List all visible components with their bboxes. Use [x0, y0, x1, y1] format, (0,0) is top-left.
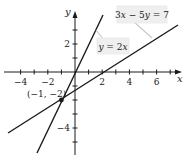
- x-tick-label: −2: [41, 77, 54, 87]
- equation-label-y-equals-2x: y = 2x: [97, 42, 127, 52]
- x-tick-label: 6: [154, 77, 160, 87]
- callout-leader-3x5y: [134, 22, 152, 38]
- intersection-label: (−1, −2): [27, 89, 66, 99]
- y-tick-label: 2: [64, 39, 70, 49]
- line-3x-minus-5y-equals-7: [8, 25, 178, 133]
- equation-label-3x-minus-5y-equals-7: 3x − 5y = 7: [115, 10, 169, 20]
- x-tick-label: 2: [99, 77, 105, 87]
- y-tick-label: −4: [57, 123, 71, 133]
- x-tick-label: −4: [14, 77, 28, 87]
- x-axis-label: x: [177, 73, 183, 84]
- y-axis-arrow-icon: [73, 11, 78, 18]
- x-tick-label: 4: [127, 77, 133, 87]
- y-axis-label: y: [64, 6, 71, 17]
- graph: −4 −2 2 4 6 2 −4 x y (−1, −2) y = 2x 3x …: [0, 0, 189, 159]
